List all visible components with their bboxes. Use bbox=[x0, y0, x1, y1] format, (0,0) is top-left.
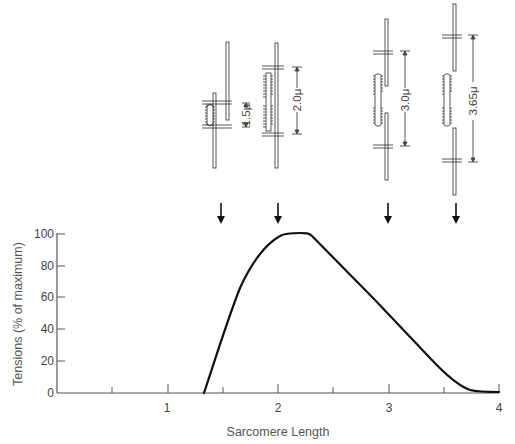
x-tick-label: 4 bbox=[496, 401, 503, 415]
y-tick-label: 20 bbox=[41, 354, 55, 368]
y-tick-label: 40 bbox=[41, 322, 55, 336]
down-arrow-icon bbox=[384, 203, 392, 224]
x-axis: 1 2 3 4 Sarcomere Length bbox=[57, 384, 503, 439]
down-arrow-icon bbox=[217, 203, 225, 224]
sarcomere-length-label: 2.0μ bbox=[291, 89, 303, 112]
sarcomere-length-label: 3.65μ bbox=[467, 86, 479, 115]
length-tension-figure: 100 80 60 40 20 0 Tensions (% of maximum… bbox=[0, 0, 515, 444]
arrow-markers bbox=[217, 203, 460, 224]
down-arrow-icon bbox=[274, 203, 282, 224]
y-tick-label: 100 bbox=[34, 227, 54, 241]
x-tick-label: 3 bbox=[386, 401, 393, 415]
y-axis-title: Tensions (% of maximum) bbox=[11, 242, 25, 386]
y-tick-label: 60 bbox=[41, 290, 55, 304]
x-axis-title: Sarcomere Length bbox=[227, 425, 330, 439]
x-tick-label: 2 bbox=[275, 401, 282, 415]
y-tick-label: 0 bbox=[47, 386, 54, 400]
sarcomere-length-label: 3.0μ bbox=[399, 89, 411, 112]
sarcomere-length-label: 1.5μ bbox=[240, 104, 252, 127]
length-tension-curve bbox=[204, 233, 499, 393]
x-tick-label: 1 bbox=[164, 401, 171, 415]
down-arrow-icon bbox=[452, 203, 460, 224]
y-axis: 100 80 60 40 20 0 Tensions (% of maximum… bbox=[11, 227, 65, 400]
y-tick-label: 80 bbox=[41, 259, 55, 273]
